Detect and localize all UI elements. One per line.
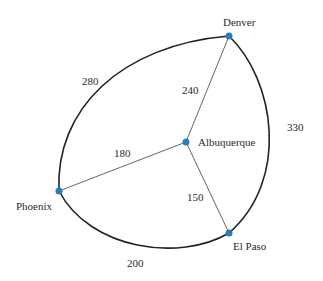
weight-phoenix-denver: 280 [82,76,99,87]
node-phoenix [56,188,63,195]
weight-phoenix-elpaso: 200 [127,258,144,269]
graph-diagram: Denver Albuquerque Phoenix El Paso 280 3… [0,0,323,281]
edge-denver-elpaso [229,36,269,233]
label-phoenix: Phoenix [16,201,52,212]
node-elpaso [226,230,233,237]
edge-albuquerque-elpaso [186,142,229,233]
weight-albuquerque-elpaso: 150 [187,192,204,203]
weight-denver-elpaso: 330 [287,122,304,133]
label-denver: Denver [223,17,255,28]
edge-phoenix-denver [59,36,229,191]
node-albuquerque [183,139,190,146]
weight-albuquerque-phoenix: 180 [114,148,131,159]
label-elpaso: El Paso [233,241,266,252]
node-denver [226,33,233,40]
graph-edges [0,0,323,281]
weight-albuquerque-denver: 240 [182,85,199,96]
label-albuquerque: Albuquerque [198,137,255,148]
